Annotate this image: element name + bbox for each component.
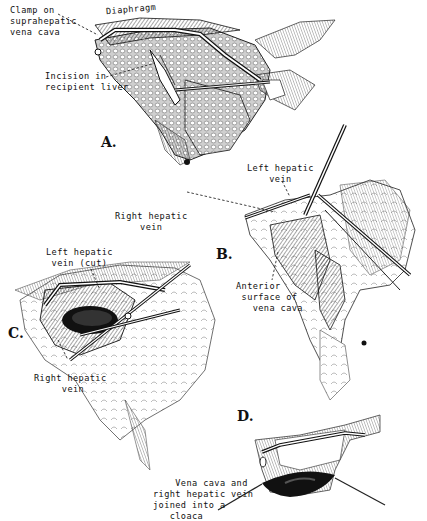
panel-letter-b: B. <box>216 246 233 262</box>
label-anterior-surface-of-vena-cava: Anterior surface of vena cava <box>236 281 303 314</box>
panel-c-drawing <box>15 262 215 470</box>
panel-letter-c: C. <box>8 325 24 341</box>
label-left-hepatic-vein-cut: Left hepatic vein (cut) <box>46 247 113 269</box>
label-right-hepatic-vein-b: Right hepatic vein <box>115 211 187 233</box>
label-clamp-on-suprahepatic-vena-cava: Clamp on suprahepatic vena cava <box>10 5 77 38</box>
label-incision-in-recipient-liver: Incision in recipient liver <box>45 71 129 93</box>
panel-letter-d: D. <box>237 408 254 424</box>
panel-a-drawing <box>95 18 335 165</box>
panel-letter-a: A. <box>101 134 117 150</box>
label-left-hepatic-vein: Left hepatic vein <box>247 163 314 185</box>
label-vena-cava-and-right-hepatic-vein-cloaca: Vena cava and right hepatic vein joined … <box>153 478 253 521</box>
label-right-hepatic-vein-c: Right hepatic vein <box>34 373 106 395</box>
